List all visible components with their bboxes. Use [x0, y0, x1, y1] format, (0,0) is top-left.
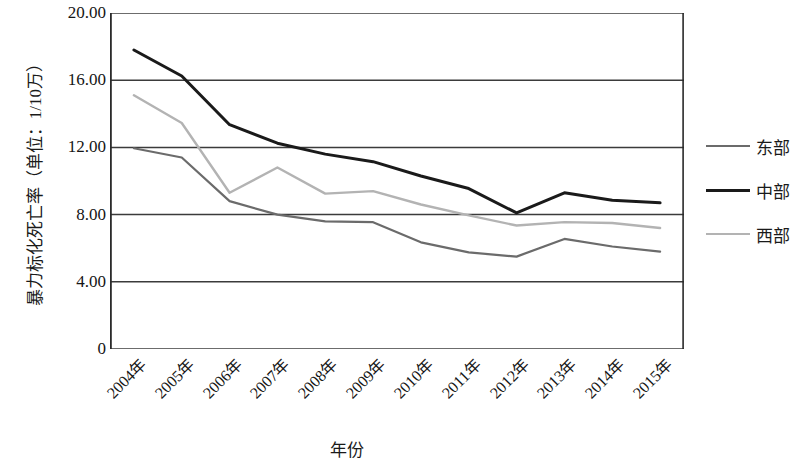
y-axis-tick-label: 4.00 [34, 273, 106, 290]
y-axis-tick-label: 16.00 [34, 71, 106, 88]
series-line-中部 [134, 50, 660, 213]
x-axis-tick-label: 2013年 [530, 352, 581, 403]
plot-svg [110, 13, 684, 349]
x-axis-tick-label: 2007年 [243, 352, 294, 403]
x-axis-title: 年份 [330, 436, 364, 461]
series-lines [134, 50, 660, 257]
gridlines [110, 13, 684, 349]
x-axis-tick-label: 2005年 [148, 352, 199, 403]
x-axis-tick-label: 2009年 [339, 352, 390, 403]
x-axis-tick-labels: 2004年2005年2006年2007年2008年2009年2010年2011年… [110, 356, 690, 426]
line-chart: 暴力标化死亡率（单位：1/10万） 20.0016.0012.008.004.0… [0, 0, 811, 469]
x-axis-tick-label: 2006年 [196, 352, 247, 403]
legend-line-swatch [706, 189, 750, 192]
legend-item-label: 中部 [756, 178, 790, 203]
x-axis-tick-label: 2008年 [291, 352, 342, 403]
axis-lines [111, 13, 683, 349]
legend-item-label: 西部 [756, 222, 790, 247]
y-axis-tick-label: 8.00 [34, 206, 106, 223]
legend: 东部中部西部 [706, 124, 811, 256]
x-axis-tick-label: 2012年 [483, 352, 534, 403]
y-axis-tick-labels: 20.0016.0012.008.004.000 [28, 0, 106, 469]
plot-area [110, 13, 684, 349]
x-axis-tick-label: 2004年 [100, 352, 151, 403]
x-axis-tick-label: 2011年 [435, 352, 485, 402]
y-axis-tick-label: 20.00 [34, 4, 106, 21]
legend-item-西部[interactable]: 西部 [706, 212, 811, 256]
x-axis-tick-label: 2015年 [626, 352, 677, 403]
legend-item-东部[interactable]: 东部 [706, 124, 811, 168]
legend-line-swatch [706, 233, 750, 235]
legend-line-swatch [706, 145, 750, 147]
legend-item-label: 东部 [756, 134, 790, 159]
series-line-西部 [134, 95, 660, 228]
x-axis-tick-label: 2014年 [578, 352, 629, 403]
y-axis-tick-label: 12.00 [34, 138, 106, 155]
legend-item-中部[interactable]: 中部 [706, 168, 811, 212]
series-line-东部 [134, 148, 660, 256]
y-axis-tick-label: 0 [34, 340, 106, 357]
x-axis-tick-label: 2010年 [387, 352, 438, 403]
